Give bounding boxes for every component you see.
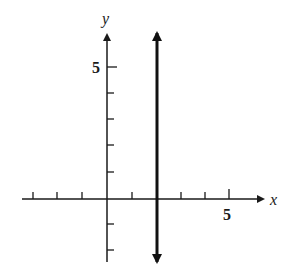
y-axis-label: y	[100, 10, 110, 28]
x-tick-label-5: 5	[223, 206, 231, 223]
x-ticks	[33, 189, 229, 199]
y-ticks	[107, 67, 117, 250]
x-axis-label: x	[269, 191, 277, 208]
y-tick-label-5: 5	[92, 59, 100, 76]
graph: x y 5 5	[0, 0, 297, 269]
